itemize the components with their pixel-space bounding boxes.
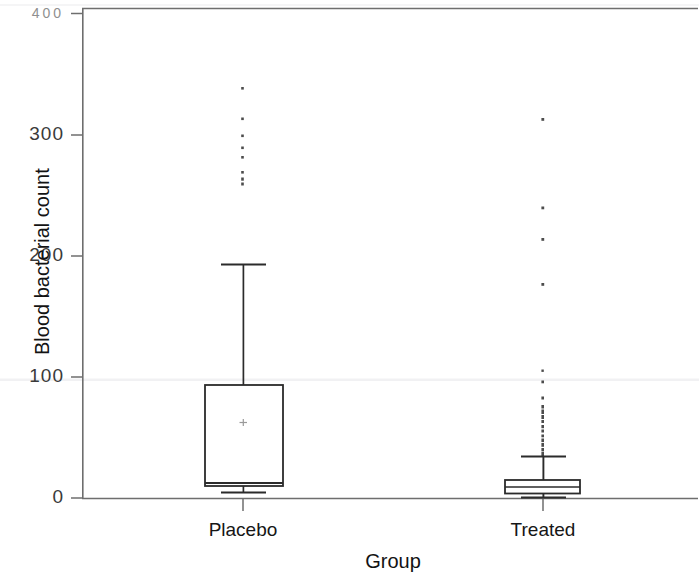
y-tick-label-100: 100 [8,365,64,387]
outlier-point [541,415,544,419]
outlier-point [241,118,244,121]
y-tick-label-300: 300 [8,123,64,145]
y-tick-label-400: 400 [16,5,64,21]
outlier-point [241,147,244,150]
y-axis-title: Blood bacterial count [31,168,54,355]
x-tick-label-treated: Treated [483,519,603,541]
outlier-point [541,443,544,447]
outlier-point [541,238,544,241]
outlier-point [241,135,244,138]
outlier-point [241,183,244,186]
outlier-point [541,425,544,428]
outlier-point [541,397,544,400]
x-tick-label-placebo: Placebo [183,519,303,541]
outlier-point [541,430,544,433]
outlier-point [541,448,544,451]
outlier-point [241,171,244,174]
boxplot-figure [0,0,699,579]
outlier-point [541,405,544,409]
outlier-point [541,118,544,121]
scan-artifact-line-top [0,4,699,6]
outlier-point [241,178,244,181]
outlier-point [241,87,244,90]
outlier-point [541,452,544,456]
figure-background [0,0,699,579]
outlier-point [541,410,544,415]
x-axis-title: Group [333,550,453,573]
outlier-point [241,156,244,159]
y-tick-label-0: 0 [8,486,64,508]
outlier-point [541,381,544,384]
outlier-point [541,420,544,423]
outlier-point [541,439,544,443]
scan-artifact-line [0,379,699,382]
outlier-point [541,435,544,438]
outlier-point [541,370,543,372]
outlier-point [541,283,544,286]
outlier-point [541,207,544,210]
